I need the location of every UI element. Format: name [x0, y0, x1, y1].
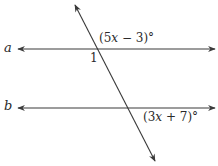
angle-label-3x-plus-7: (3x + 7)°	[143, 111, 198, 123]
angle-label-5x-minus-3: (5x − 3)°	[99, 32, 154, 44]
line-b-label: b	[4, 99, 12, 112]
transversal-line	[75, 5, 155, 161]
angle-1-label: 1	[90, 52, 98, 64]
diagram-canvas: a b (5x − 3)° 1 (3x + 7)°	[0, 0, 218, 166]
diagram-lines	[0, 0, 218, 166]
line-a-label: a	[4, 41, 12, 54]
